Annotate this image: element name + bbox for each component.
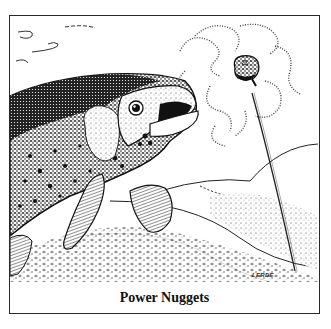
figure-caption: Power Nuggets [10,290,319,306]
cropped-text-above [0,0,331,4]
trout-illustration [10,16,318,282]
figure-frame: LERDE Power Nuggets [9,15,320,314]
artist-signature: LERDE [252,272,274,278]
bait-nugget [234,56,259,86]
scent-trail [178,24,301,146]
pelvic-fin [130,185,172,232]
water-swirls [16,26,95,63]
